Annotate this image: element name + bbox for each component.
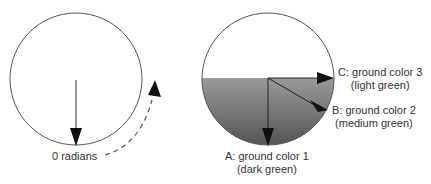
label-b-line1: B: ground color 2 (332, 104, 416, 117)
rotation-arc (105, 100, 152, 155)
rotation-arrow-icon (148, 80, 161, 97)
label-b-line2: (medium green) (332, 117, 416, 130)
down-arrow-icon (70, 128, 82, 146)
label-c-line2: (light green) (338, 79, 422, 92)
label-a-line1: A: ground color 1 (225, 150, 309, 163)
label-c: C: ground color 3 (light green) (338, 66, 422, 92)
label-a: A: ground color 1 (dark green) (225, 150, 309, 176)
label-a-line2: (dark green) (225, 163, 309, 176)
left-circle (10, 13, 161, 155)
label-c-line1: C: ground color 3 (338, 66, 422, 79)
label-b: B: ground color 2 (medium green) (332, 104, 416, 130)
zero-radians-label: 0 radians (52, 150, 97, 163)
right-circle (202, 13, 334, 146)
